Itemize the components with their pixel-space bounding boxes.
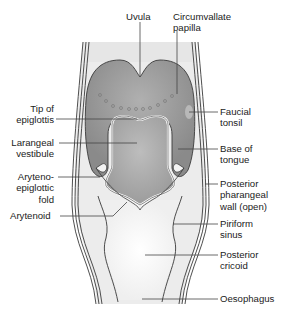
label-line: Base of: [220, 143, 253, 154]
label-line: papilla: [173, 22, 231, 33]
label-aryepiglottic-fold: Aryteno- epiglottic fold: [16, 171, 54, 205]
label-laryngeal-vestibule: Larangeal vestibule: [11, 137, 54, 160]
label-faucial-tonsil: Faucial tonsil: [220, 106, 251, 129]
label-line: vestibule: [11, 148, 54, 159]
label-line: tonsil: [220, 117, 251, 128]
label-oesophagus: Oesophagus: [220, 293, 274, 304]
label-line: cricoid: [220, 260, 258, 271]
label-line: tongue: [220, 154, 253, 165]
label-line: epiglottis: [16, 114, 54, 125]
label-line: Piriform: [220, 218, 253, 229]
label-line: wall (open): [220, 201, 268, 212]
label-tip-of-epiglottis: Tip of epiglottis: [16, 103, 54, 126]
label-line: Larangeal: [11, 137, 54, 148]
label-line: Aryteno-: [16, 171, 54, 182]
label-line: epiglottic: [16, 182, 54, 193]
label-line: Posterior: [220, 249, 258, 260]
label-arytenoid: Arytenoid: [10, 210, 51, 221]
label-circumvallate-papilla: Circumvallate papilla: [173, 11, 231, 34]
label-line: Faucial: [220, 106, 251, 117]
label-line: sinus: [220, 229, 253, 240]
label-base-of-tongue: Base of tongue: [220, 143, 253, 166]
label-piriform-sinus: Piriform sinus: [220, 218, 253, 241]
label-posterior-pharyngeal-wall: Posterior pharangeal wall (open): [220, 178, 268, 212]
label-line: Circumvallate: [173, 11, 231, 22]
label-uvula: Uvula: [126, 11, 151, 22]
label-line: Posterior: [220, 178, 268, 189]
label-line: pharangeal: [220, 189, 268, 200]
label-line: fold: [16, 194, 54, 205]
label-line: Tip of: [16, 103, 54, 114]
label-posterior-cricoid: Posterior cricoid: [220, 249, 258, 272]
